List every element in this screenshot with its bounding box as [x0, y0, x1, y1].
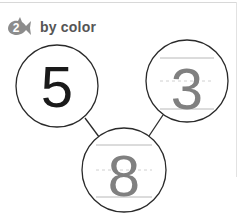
whole-circle: 8 [82, 128, 166, 212]
number-bond-diagram: 5 3 8 [0, 0, 238, 220]
part-circle-right: 3 [146, 40, 228, 122]
part-value-left: 5 [41, 54, 73, 119]
whole-value: 8 [108, 143, 140, 208]
part-circle-left: 5 [16, 45, 98, 127]
part-value-right: 3 [171, 56, 203, 121]
